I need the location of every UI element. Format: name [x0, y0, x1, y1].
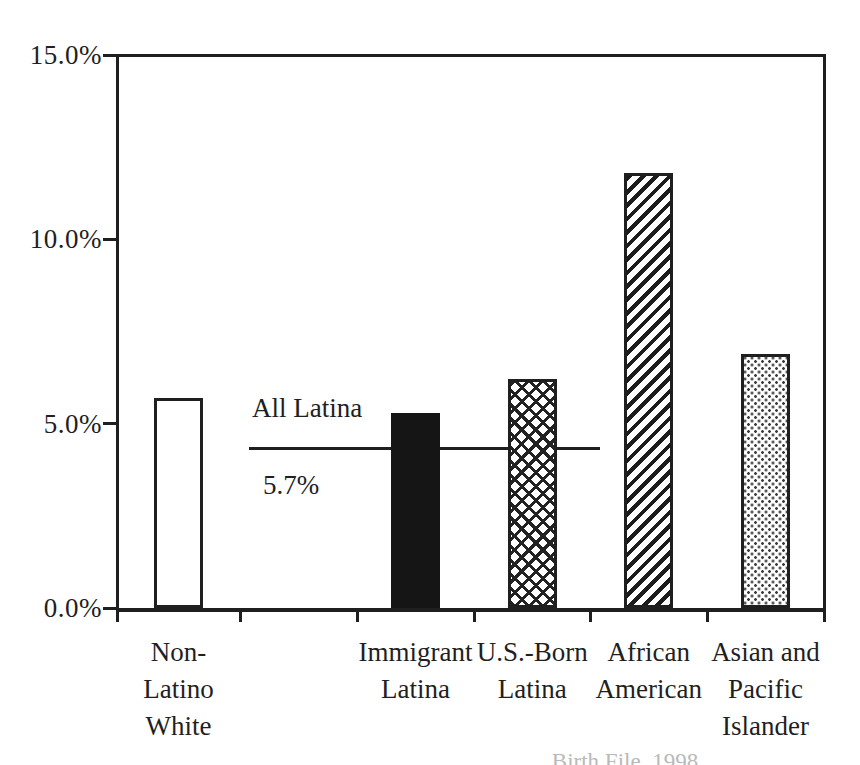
x-axis-tick-6: [823, 608, 826, 622]
y-axis-tick-10.0%: [103, 238, 117, 241]
x-axis-tick-3: [473, 608, 476, 622]
category-label-asian-pacific-islander: Asian andPacificIslander: [676, 634, 856, 745]
category-label-non-latino-white: Non-LatinoWhite: [89, 634, 269, 745]
category-label-line: Non-: [89, 634, 269, 671]
bar-african-american: [624, 173, 673, 608]
y-axis-label-5.0%: 5.0%: [18, 408, 102, 440]
all-latina-label: All Latina: [252, 393, 362, 424]
category-label-line: Islander: [676, 708, 856, 745]
plot-area: [116, 54, 826, 612]
y-axis-label-0.0%: 0.0%: [18, 592, 102, 624]
bar-chart: All Latina 5.7% Birth File, 1998 0.0%5.0…: [0, 0, 860, 765]
category-label-line: White: [89, 708, 269, 745]
category-label-line: Pacific: [676, 671, 856, 708]
category-label-line: Asian and: [676, 634, 856, 671]
y-axis-tick-5.0%: [103, 422, 117, 425]
x-axis-tick-4: [589, 608, 592, 622]
y-axis-tick-15.0%: [103, 54, 117, 57]
y-axis-label-10.0%: 10.0%: [18, 223, 102, 255]
category-label-line: Latino: [89, 671, 269, 708]
bar-non-latino-white: [154, 398, 203, 608]
bar-us-born-latina: [508, 379, 557, 608]
x-axis-tick-5: [706, 608, 709, 622]
cropped-caption: Birth File, 1998: [460, 749, 790, 765]
all-latina-value-label: 5.7%: [263, 470, 319, 501]
bar-immigrant-latina: [391, 413, 440, 608]
y-axis-label-15.0%: 15.0%: [18, 39, 102, 71]
bar-asian-pacific-islander: [741, 354, 790, 608]
x-axis-tick-2: [356, 608, 359, 622]
x-axis-tick-0: [116, 608, 119, 622]
x-axis-tick-1: [239, 608, 242, 622]
